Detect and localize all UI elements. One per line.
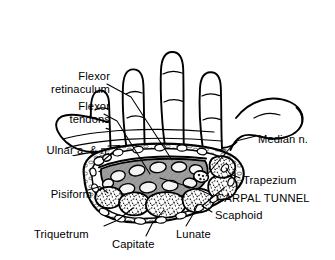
label-ulnar-a-n: Ulnar a. & n. xyxy=(6,144,110,157)
carpal-tunnel-figure: Flexor retinaculum Flexor tendons Ulnar … xyxy=(0,0,335,260)
digit-index xyxy=(200,72,222,150)
label-pisiform: Pisiform xyxy=(18,188,92,201)
label-lunate: Lunate xyxy=(176,228,228,241)
anatomy-artwork xyxy=(0,0,335,260)
label-carpal-tunnel: CARPAL TUNNEL xyxy=(216,192,324,205)
label-capitate: Capitate xyxy=(112,238,174,251)
label-flexor-tendons: Flexor tendons xyxy=(36,100,110,125)
label-median-n: Median n. xyxy=(258,133,324,146)
label-flexor-retinaculum: Flexor retinaculum xyxy=(26,70,110,95)
label-scaphoid: Scaphoid xyxy=(215,209,279,222)
label-triquetrum: Triquetrum xyxy=(34,228,108,241)
label-trapezium: Trapezium xyxy=(243,174,313,187)
